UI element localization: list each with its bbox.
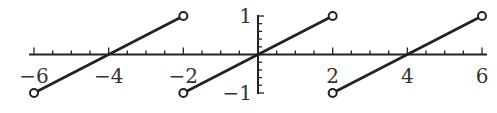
open-endpoint <box>329 12 337 20</box>
x-tick-label: 2 <box>326 64 339 88</box>
open-endpoint <box>179 89 187 97</box>
x-tick-label: 6 <box>476 64 489 88</box>
x-tick-label: −2 <box>169 64 198 88</box>
x-tick-label: −6 <box>19 64 48 88</box>
x-tick-label: 4 <box>401 64 414 88</box>
x-tick-label: −4 <box>94 64 123 88</box>
sawtooth-chart: −6−4−22461−1 <box>0 0 497 113</box>
open-endpoint <box>478 12 486 20</box>
y-tick-label: 1 <box>239 4 252 28</box>
y-tick-label: −1 <box>223 81 252 105</box>
open-endpoint <box>179 12 187 20</box>
open-endpoint <box>329 89 337 97</box>
open-endpoint <box>30 89 38 97</box>
